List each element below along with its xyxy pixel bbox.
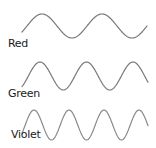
red-wave	[22, 14, 147, 38]
red-label: Red	[8, 38, 28, 49]
violet-wave	[22, 110, 148, 140]
green-wave	[22, 62, 148, 90]
wavelength-diagram	[0, 0, 156, 148]
green-label: Green	[8, 88, 40, 99]
violet-label: Violet	[11, 129, 40, 140]
